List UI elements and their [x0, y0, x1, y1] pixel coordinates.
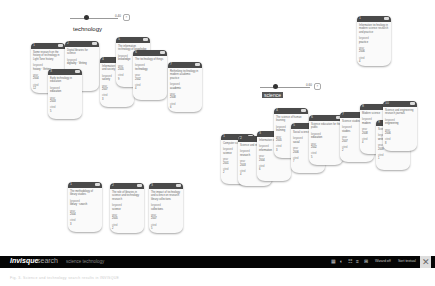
card-body: The technology of thingskeywordtechnolog… — [133, 56, 167, 93]
card-title[interactable]: The science of human learning — [276, 116, 306, 123]
card-title[interactable]: Information technology in modern science… — [359, 24, 389, 34]
card-header[interactable]: 6 — [309, 115, 343, 121]
card-header[interactable]: 6 — [133, 50, 167, 56]
card-control-icon[interactable] — [75, 70, 80, 73]
result-card[interactable]: 1The methodology of library studieskeywo… — [68, 182, 102, 232]
card-number: 1 — [33, 43, 35, 47]
card-header[interactable]: 10 — [383, 101, 417, 107]
card-field-value: collections — [151, 208, 181, 211]
result-card[interactable]: 2The role of libraries in science and te… — [110, 183, 144, 233]
card-control-icon[interactable] — [195, 63, 200, 66]
card-header[interactable]: 3 — [149, 183, 183, 189]
result-card[interactable]: 1Information technology in modern scienc… — [357, 16, 391, 66]
card-field-value: 2004 — [70, 213, 100, 216]
card-field-value: 5 — [50, 110, 80, 113]
sort-icon[interactable]: ☷ — [347, 259, 352, 264]
result-card[interactable]: 3The impact of technology and science on… — [149, 183, 183, 233]
card-title[interactable]: Digital libraries for science — [67, 49, 97, 56]
card-header[interactable]: 2 — [65, 41, 99, 47]
card-field-value: 2 — [112, 227, 142, 230]
cluster-label-science[interactable]: science — [262, 92, 283, 98]
sort-textual-button[interactable]: Sort textual — [398, 259, 416, 263]
close-cluster-icon[interactable]: × — [314, 83, 321, 90]
bottom-search-bar: Invisque search science technology ▦ ◐ ☷… — [0, 256, 435, 268]
card-field-value: academic — [170, 87, 200, 90]
card-title[interactable]: Some research on the history of technolo… — [33, 51, 63, 61]
card-header[interactable]: 3 — [48, 69, 82, 75]
card-body: Rethinking technology in modern academic… — [168, 68, 202, 112]
card-control-icon[interactable] — [176, 184, 181, 187]
filter-icon[interactable]: ⊞ — [363, 259, 368, 264]
search-query[interactable]: science technology — [66, 259, 104, 264]
card-number: 3 — [151, 183, 153, 187]
result-card[interactable]: 7Rethinking technology in modern academi… — [168, 62, 202, 112]
card-header[interactable]: 1 — [68, 182, 102, 188]
card-title[interactable]: Science education for the public — [311, 123, 341, 130]
list-icon[interactable]: ≡ — [355, 259, 360, 264]
pie-icon[interactable]: ◐ — [339, 259, 344, 264]
card-field-value: 3 — [102, 98, 132, 101]
grid-icon[interactable]: ▦ — [331, 259, 336, 264]
card-number: 2 — [112, 183, 114, 187]
card-title[interactable]: Science and engineering research journal… — [385, 109, 415, 116]
wizard-toggle-button[interactable]: Wizard off — [375, 259, 391, 263]
logo-icon[interactable]: ✕ — [420, 256, 431, 268]
card-title[interactable]: The technology of things — [135, 58, 165, 61]
card-number: 7 — [342, 112, 344, 116]
technology-weight-slider[interactable]: 0.40 × — [70, 14, 128, 24]
card-number: 3 — [50, 69, 52, 73]
card-number: 6 — [311, 115, 313, 119]
slider-value: 0.40 — [115, 14, 121, 18]
card-header[interactable]: 1 — [357, 16, 391, 22]
card-field-value: 5 — [311, 156, 341, 159]
card-field-value: library · search — [70, 203, 100, 206]
card-title[interactable]: The impact of technology and science on … — [151, 191, 181, 201]
card-control-icon[interactable] — [301, 109, 306, 112]
card-control-icon[interactable] — [384, 17, 389, 20]
card-title[interactable]: Rethinking technology in modern academic… — [170, 70, 200, 80]
result-card[interactable]: 6Science education for the publickeyword… — [309, 115, 343, 165]
card-field-value: 1 — [378, 157, 408, 160]
card-number: 1 — [70, 182, 72, 186]
card-control-icon[interactable] — [410, 102, 415, 105]
result-card[interactable]: 3Early technology in educationkeywordedu… — [48, 69, 82, 119]
card-number: 10 — [385, 101, 389, 105]
slider-knob[interactable] — [273, 84, 278, 89]
card-field-value: practice — [359, 41, 389, 44]
card-number: 7 — [170, 62, 172, 66]
card-field-value: 2006 — [359, 50, 389, 53]
card-header[interactable]: 2 — [110, 183, 144, 189]
card-header[interactable]: 4 — [274, 108, 308, 114]
card-body: The impact of technology and science on … — [149, 189, 183, 233]
card-field-value: 2005 — [112, 217, 142, 220]
card-control-icon[interactable] — [92, 42, 97, 45]
cluster-label-technology[interactable]: technology — [73, 26, 102, 32]
card-body: Early technology in educationkeywordeduc… — [48, 75, 82, 115]
card-control-icon[interactable] — [137, 184, 142, 187]
card-number: 4 — [276, 108, 278, 112]
slider-knob[interactable] — [84, 15, 89, 20]
card-body: Science and engineering research journal… — [383, 107, 417, 147]
card-title[interactable]: The methodology of library studies — [70, 190, 100, 197]
result-card[interactable]: 6The technology of thingskeywordtechnolo… — [133, 50, 167, 100]
brand-name: Invisque — [10, 257, 38, 264]
card-number: 5 — [293, 123, 295, 127]
card-control-icon[interactable] — [143, 38, 148, 41]
card-field-value: engineering — [385, 122, 415, 125]
card-header[interactable]: 1 — [31, 43, 65, 49]
card-control-icon[interactable] — [160, 51, 165, 54]
card-number: 2 — [240, 136, 242, 140]
card-title[interactable]: Early technology in education — [50, 77, 80, 84]
card-number: 4 — [102, 57, 104, 61]
card-field-value: 2002 — [311, 146, 341, 149]
card-control-icon[interactable] — [58, 44, 63, 47]
card-field-value: 6 — [259, 168, 289, 171]
card-control-icon[interactable] — [95, 183, 100, 186]
card-field-value: 6 — [170, 106, 200, 109]
result-card[interactable]: 10Science and engineering research journ… — [383, 101, 417, 151]
card-header[interactable]: 5 — [116, 37, 150, 43]
card-title[interactable]: The role of libraries in science and tec… — [112, 191, 142, 201]
card-header[interactable]: 7 — [168, 62, 202, 68]
close-cluster-icon[interactable]: × — [123, 14, 130, 21]
card-field-value: 5 — [151, 227, 181, 230]
